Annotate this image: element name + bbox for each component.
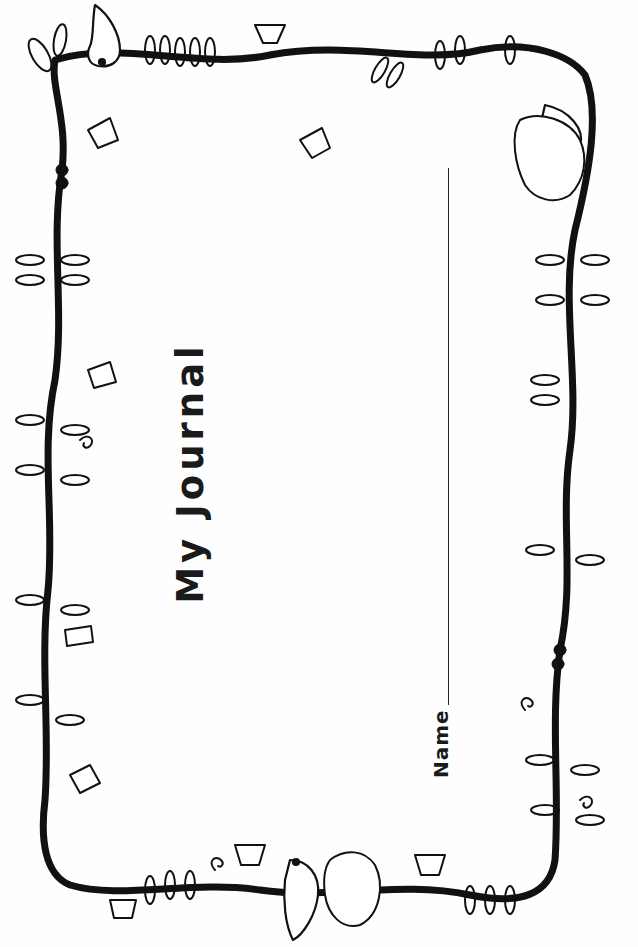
name-label: Name: [431, 709, 451, 778]
name-blank-line[interactable]: [448, 168, 449, 705]
journal-cover-page: My Journal Name: [0, 0, 638, 947]
name-field[interactable]: Name: [431, 168, 451, 778]
vine-border-illustration: [0, 0, 638, 947]
journal-title: My Journal: [169, 342, 212, 604]
